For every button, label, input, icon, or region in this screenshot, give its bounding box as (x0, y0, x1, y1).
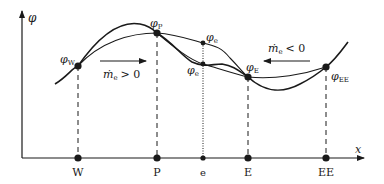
node-label-e: e (200, 167, 206, 178)
interpolation-diagram: φ x W P e E EE φW φP φe φe φE φEE ṁe> 0 … (0, 0, 384, 184)
node-label-E: E (244, 166, 252, 179)
axis-point-E (244, 154, 251, 161)
curve-high-order (55, 23, 348, 90)
point-phi-W (74, 62, 81, 69)
axis-point-P (153, 154, 160, 161)
node-label-W: W (72, 166, 84, 179)
flow-label-negative: ṁe< 0 (268, 42, 305, 56)
flow-label-positive: ṁe> 0 (103, 68, 140, 82)
value-label-phi-EE: φEE (331, 70, 349, 84)
value-label-phi-W: φW (60, 53, 76, 67)
value-label-phi-E: φE (246, 61, 259, 75)
curves (55, 23, 348, 90)
axis-point-e (200, 155, 205, 160)
point-phi-E (244, 73, 251, 80)
axis-point-EE (322, 154, 329, 161)
point-phi-e-upper (201, 41, 206, 46)
point-phi-EE (322, 63, 329, 70)
axes (22, 11, 364, 158)
value-label-phi-e-lower: φe (187, 64, 199, 78)
point-phi-e-lower (201, 62, 206, 67)
node-label-EE: EE (318, 166, 334, 179)
x-axis-label: x (355, 143, 362, 156)
value-label-phi-e-upper: φe (206, 31, 218, 45)
axis-point-W (74, 154, 81, 161)
node-label-P: P (153, 166, 161, 179)
value-label-phi-P: φP (150, 17, 163, 31)
y-axis-label: φ (28, 11, 37, 25)
